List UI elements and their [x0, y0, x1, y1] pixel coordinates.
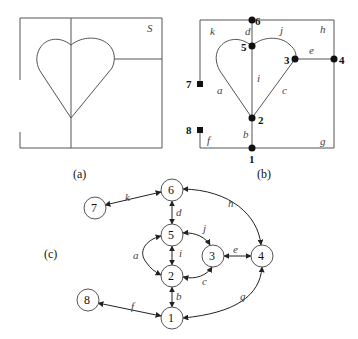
graph-edge-label-i: i [179, 247, 182, 259]
graph-edge-label-e: e [233, 243, 238, 255]
vertex-label-8: 8 [186, 124, 192, 136]
vertex-8 [197, 127, 203, 133]
region-label-s: S [147, 22, 153, 34]
svg-text:1: 1 [168, 311, 174, 325]
graph-edge-label-a: a [133, 249, 139, 261]
graph-edge-j [183, 233, 210, 245]
graph-node-3: 3 [202, 245, 224, 267]
graph-node-8: 8 [77, 289, 99, 311]
graph-edge-label-c: c [202, 275, 207, 287]
edge-label-g: g [320, 135, 326, 147]
vertex-2 [249, 115, 256, 122]
panel-a-heart [37, 38, 115, 118]
edge-label-b: b [243, 128, 249, 140]
graph-node-1: 1 [161, 307, 183, 329]
caption-b: (b) [257, 167, 271, 181]
vertex-label-5: 5 [241, 41, 247, 53]
caption-c: (c) [44, 247, 57, 261]
vertex-4 [331, 56, 338, 63]
svg-text:7: 7 [91, 201, 97, 215]
graph-node-4: 4 [251, 245, 273, 267]
svg-text:6: 6 [168, 183, 174, 197]
graph-edge-label-j: j [201, 222, 206, 234]
graph-node-5: 5 [161, 224, 183, 246]
vertex-label-7: 7 [186, 78, 192, 90]
graph-edge-f [98, 303, 161, 316]
edge-label-i: i [257, 72, 260, 84]
graph-edge-k [105, 192, 161, 205]
graph-edge-label-k: k [125, 191, 131, 203]
svg-text:4: 4 [258, 249, 264, 263]
vertex-label-6: 6 [255, 15, 261, 27]
edge-label-e: e [309, 44, 314, 56]
svg-text:3: 3 [209, 249, 215, 263]
vertex-label-2: 2 [258, 114, 264, 126]
edge-label-d: d [245, 25, 251, 37]
caption-a: (a) [73, 167, 86, 181]
vertex-7 [197, 81, 203, 87]
vertex-3 [292, 56, 299, 63]
vertex-1 [249, 145, 256, 152]
svg-text:2: 2 [168, 269, 174, 283]
panel-a: S (a) [20, 18, 162, 181]
graph-edge-h [183, 189, 261, 245]
graph-node-7: 7 [84, 197, 106, 219]
panel-c: (c) 6 7 5 3 4 [44, 179, 273, 329]
vertex-label-1: 1 [249, 153, 255, 165]
vertex-label-4: 4 [339, 54, 345, 66]
edge-label-k: k [210, 25, 216, 37]
edge-label-h: h [320, 23, 326, 35]
graph-edge-c [183, 267, 212, 278]
graph-node-6: 6 [161, 179, 183, 201]
panel-b: 6 5 3 4 2 1 7 8 k d j h e i a c b f g (b… [186, 15, 345, 181]
panel-a-frame [20, 18, 162, 148]
figure-canvas: S (a) 6 5 3 4 2 1 7 8 k d j h e i a c b [0, 0, 358, 339]
vertex-label-3: 3 [284, 54, 290, 66]
edge-label-c: c [282, 84, 287, 96]
svg-text:5: 5 [168, 228, 174, 242]
edge-label-j: j [278, 24, 283, 36]
vertex-5 [249, 43, 256, 50]
graph-edge-label-d: d [176, 206, 182, 218]
svg-text:8: 8 [84, 293, 90, 307]
graph-edge-label-h: h [228, 197, 234, 209]
edge-label-a: a [217, 84, 223, 96]
graph-edge-a [143, 236, 161, 275]
graph-node-2: 2 [161, 265, 183, 287]
graph-edge-g [183, 267, 262, 318]
graph-edge-label-g: g [240, 290, 246, 302]
graph-edge-label-b: b [176, 290, 182, 302]
edge-label-f: f [207, 134, 212, 146]
